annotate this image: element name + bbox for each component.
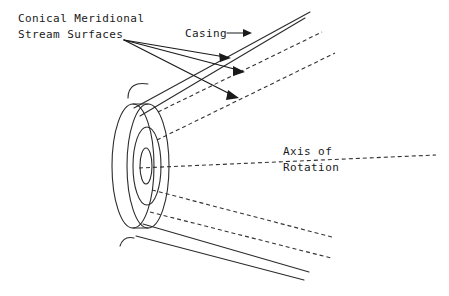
- diagram-canvas: Conical Meridional Stream Surfaces Casin…: [0, 0, 449, 296]
- casing-upper-hook: [128, 84, 148, 98]
- leader-line-3: [124, 40, 232, 95]
- stream-surface-4: [150, 212, 331, 258]
- arrow-right-icon: [243, 29, 252, 37]
- leader-line-1: [124, 40, 225, 57]
- casing-wall-lower-group: [120, 224, 309, 280]
- stream-surfaces-label-line1: Conical Meridional: [18, 12, 144, 25]
- arrow-head-icon-3: [226, 90, 239, 100]
- casing-label: Casing: [185, 27, 227, 40]
- casing-leader: [227, 29, 252, 37]
- technical-diagram: Conical Meridional Stream Surfaces Casin…: [0, 0, 449, 296]
- stream-surfaces-leaders: [124, 40, 245, 100]
- casing-lower-hook: [120, 237, 134, 246]
- stream-surface-3: [152, 190, 332, 237]
- annulus-inlet-face: [112, 104, 169, 228]
- axis-label-line2: Rotation: [283, 161, 339, 174]
- axis-label-line1: Axis of: [283, 145, 332, 158]
- mid-ring-ellipse: [133, 127, 161, 205]
- stream-surface-2: [157, 53, 335, 140]
- arrow-head-icon-1: [219, 53, 231, 62]
- casing-outer-wall-lower: [136, 236, 304, 280]
- inner-bore-ellipse: [140, 148, 152, 184]
- stream-surfaces-label-line2: Stream Surfaces: [18, 28, 123, 41]
